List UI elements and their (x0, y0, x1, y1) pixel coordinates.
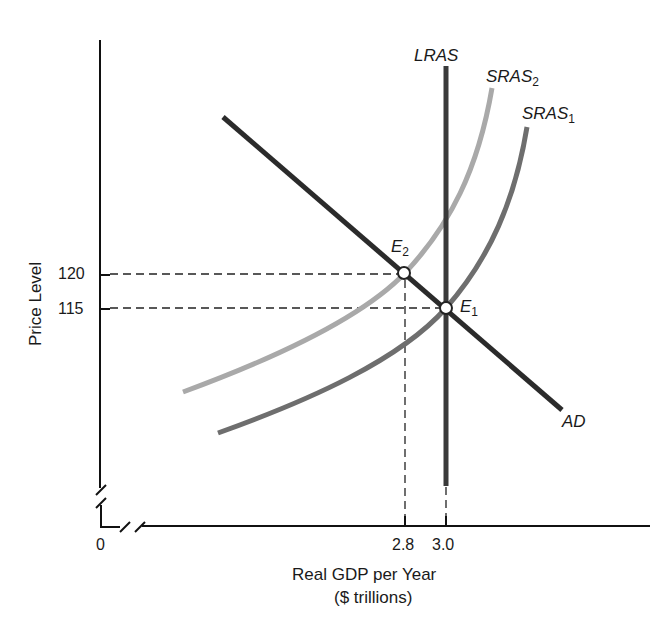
ad-line (223, 117, 562, 410)
e2-label: E2 (391, 237, 409, 259)
x-axis-title: Real GDP per Year (292, 565, 436, 585)
e2-point (398, 267, 410, 279)
sras1-label: SRAS1 (522, 104, 575, 126)
dashed-guides (110, 274, 446, 516)
origin-label: 0 (96, 536, 105, 554)
y-tick-120: 120 (58, 265, 85, 283)
x-tick-2-8: 2.8 (392, 536, 414, 554)
x-tick-3-0: 3.0 (432, 536, 454, 554)
sras2-label: SRAS2 (486, 67, 539, 89)
y-axis-title: Price Level (26, 262, 46, 346)
x-axis (120, 522, 650, 532)
e1-point (440, 302, 452, 314)
y-axis (96, 40, 120, 527)
tick-marks (100, 275, 446, 526)
y-tick-115: 115 (58, 300, 84, 318)
x-axis-units: ($ trillions) (334, 588, 412, 608)
ad-label: AD (562, 412, 586, 432)
lras-label: LRAS (414, 46, 458, 66)
sras1-curve (218, 127, 527, 433)
e1-label: E1 (460, 297, 478, 319)
